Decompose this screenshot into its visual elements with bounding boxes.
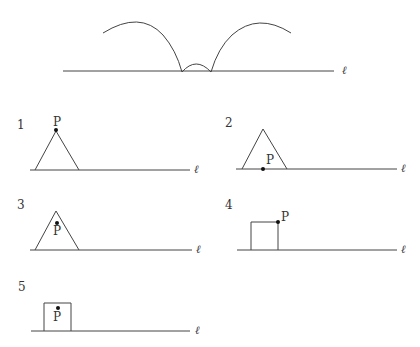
option-2-line-label: ℓ	[401, 163, 406, 175]
locus-right-arc	[211, 23, 291, 72]
option-5-point-label: P	[53, 311, 61, 323]
option-2-number: 2	[225, 117, 233, 129]
option-5-line-label: ℓ	[195, 325, 200, 337]
option-1-point-label: P	[53, 116, 61, 128]
option-5-number: 5	[18, 281, 26, 293]
option-4-point-label: P	[281, 211, 289, 223]
option-1-line-label: ℓ	[194, 164, 199, 176]
locus-figure	[63, 22, 334, 72]
diagram-canvas	[0, 0, 420, 347]
option-2-point-label: P	[266, 154, 274, 166]
point-p-dot	[261, 167, 265, 171]
option-3-line-label: ℓ	[196, 244, 201, 256]
option-1-number: 1	[17, 119, 25, 131]
option-4-number: 4	[225, 199, 233, 211]
point-p-dot	[276, 220, 280, 224]
line-label-top: ℓ	[342, 65, 347, 77]
option-3-point-label: P	[53, 225, 61, 237]
option-4-line-label: ℓ	[401, 244, 406, 256]
option-1-figure	[30, 128, 190, 170]
option-3-number: 3	[17, 199, 25, 211]
option-2-figure	[236, 129, 397, 171]
option-4-figure	[237, 220, 397, 250]
locus-left-arc	[103, 22, 182, 72]
